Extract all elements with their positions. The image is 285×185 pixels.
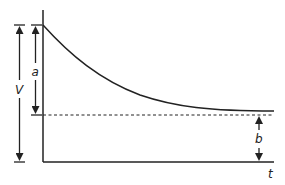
decay-curve <box>43 25 274 111</box>
label-v: V <box>15 83 24 97</box>
diagram-canvas: V a b t <box>0 0 285 185</box>
label-b: b <box>255 132 263 146</box>
label-t: t <box>268 167 274 181</box>
label-a: a <box>32 65 39 79</box>
